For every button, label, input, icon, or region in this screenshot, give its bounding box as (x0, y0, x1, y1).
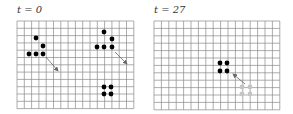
live-cell (102, 85, 107, 90)
live-cell (102, 30, 107, 35)
live-cell (95, 45, 100, 50)
live-cell (34, 36, 39, 41)
direction-arrow-icon (46, 57, 58, 71)
live-cell (41, 44, 46, 49)
direction-arrow-icon (233, 74, 245, 84)
dead-cell-ghost (248, 85, 253, 90)
direction-arrow-icon (115, 52, 127, 64)
live-cell (27, 52, 32, 57)
dead-cell-ghost (240, 85, 245, 90)
dead-cell-ghost (248, 92, 253, 97)
live-cell (218, 69, 223, 74)
live-cell (110, 45, 115, 50)
live-cell (41, 52, 46, 57)
live-cell (225, 69, 230, 74)
live-cell (110, 37, 115, 42)
dead-cell-ghost (240, 92, 245, 97)
live-cell (218, 61, 223, 66)
game-of-life-diagram (0, 0, 293, 114)
live-cell (109, 85, 114, 90)
live-cell (102, 92, 107, 97)
live-cell (225, 61, 230, 66)
live-cell (109, 92, 114, 97)
live-cell (34, 52, 39, 57)
live-cell (102, 45, 107, 50)
